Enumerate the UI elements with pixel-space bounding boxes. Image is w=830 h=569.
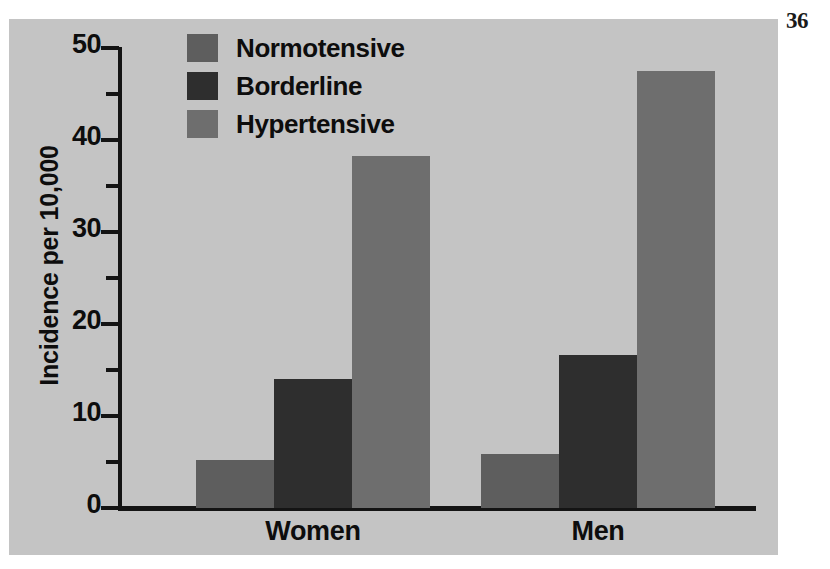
x-tick-label: Women	[196, 516, 430, 547]
legend-swatch-icon	[187, 34, 218, 62]
x-tick-label: Men	[481, 516, 715, 547]
legend-swatch-icon	[187, 72, 218, 100]
y-tick-minor	[106, 276, 119, 280]
bar	[196, 460, 274, 508]
y-tick-major	[101, 414, 119, 418]
bar	[559, 355, 637, 508]
y-tick-major	[101, 138, 119, 142]
legend: NormotensiveBorderlineHypertensive	[187, 29, 405, 143]
bar	[481, 454, 559, 508]
y-tick-minor	[106, 368, 119, 372]
bar	[352, 156, 430, 508]
y-tick-major	[101, 230, 119, 234]
y-tick-minor	[106, 92, 119, 96]
y-tick-label: 0	[17, 489, 101, 520]
legend-item: Normotensive	[187, 29, 405, 67]
y-tick-minor	[106, 184, 119, 188]
bar	[637, 71, 715, 508]
figure-panel: 01020304050 Incidence per 10,000 WomenMe…	[9, 19, 778, 555]
bar	[274, 379, 352, 508]
legend-label: Normotensive	[236, 33, 405, 64]
legend-swatch-icon	[187, 110, 218, 138]
y-tick-minor	[106, 460, 119, 464]
page-number: 36	[786, 8, 808, 34]
legend-label: Hypertensive	[236, 109, 395, 140]
y-tick-major	[101, 46, 119, 50]
legend-label: Borderline	[236, 71, 362, 102]
y-tick-major	[101, 322, 119, 326]
y-tick-major	[101, 506, 119, 510]
y-axis-title: Incidence per 10,000	[35, 46, 64, 486]
legend-item: Hypertensive	[187, 105, 405, 143]
legend-item: Borderline	[187, 67, 405, 105]
